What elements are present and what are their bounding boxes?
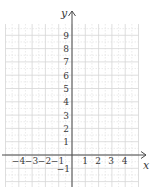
x-tick-label: 1 (82, 156, 88, 166)
x-tick-label: 3 (108, 156, 114, 166)
x-tick-label: −4 (12, 156, 26, 166)
y-tick-label: 5 (63, 84, 69, 94)
y-tick-label: 9 (63, 31, 69, 41)
y-tick-label: 8 (63, 44, 69, 54)
coordinate-plane: x y −4 −3 −2 −1 1 2 3 4 9 8 7 6 5 4 3 2 … (0, 0, 156, 187)
y-tick-label: −1 (57, 164, 70, 174)
y-tick-label: 4 (63, 97, 69, 107)
x-tick-label: 2 (95, 156, 101, 166)
y-tick-label: 6 (63, 71, 69, 81)
y-tick-label: 1 (63, 137, 69, 147)
x-tick-label: −3 (25, 156, 39, 166)
y-tick-label: 2 (63, 124, 69, 134)
y-axis-label: y (60, 7, 68, 20)
x-axis-label: x (143, 159, 150, 172)
x-tick-label: 4 (122, 156, 128, 166)
y-tick-label: 3 (63, 111, 69, 121)
x-tick-label: −2 (38, 156, 51, 166)
y-tick-label: 7 (63, 57, 69, 67)
